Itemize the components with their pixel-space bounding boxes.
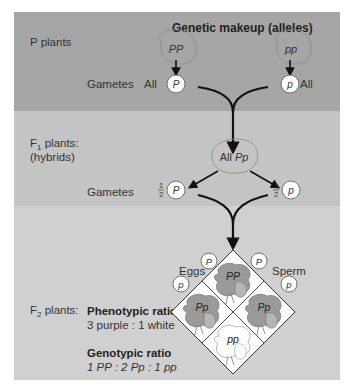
gamete-left-allele: P [173, 79, 180, 90]
sperm-P: P [251, 253, 267, 269]
svg-text:PP: PP [226, 270, 240, 282]
svg-text:P: P [173, 185, 180, 196]
svg-text:pp: pp [226, 333, 239, 345]
svg-text:p: p [177, 279, 183, 290]
svg-text:P: P [206, 256, 213, 267]
f1-gamete-p: 1 2 p [273, 181, 300, 199]
f1-genotype-oval: All Pp [212, 139, 258, 173]
arrow-diagonal-left-icon [192, 171, 218, 186]
svg-text:p: p [287, 185, 294, 196]
diagram-graphics: PP pp P p All Pp 1 [14, 12, 340, 380]
svg-text:Pp: Pp [258, 301, 271, 313]
svg-text:1: 1 [274, 181, 278, 190]
fertilization-arrow-icon [198, 195, 233, 244]
egg-p: p [173, 276, 189, 292]
parent-left-genotype: PP [169, 43, 184, 55]
genetics-diagram: P plants Gametes F1 plants: (hybrids) Ga… [14, 12, 340, 380]
parent-right-genotype: pp [284, 43, 297, 55]
f1-gamete-P: 1 2 P [158, 181, 185, 199]
sperm-p: p [281, 276, 297, 292]
gamete-P-parent: P [167, 75, 185, 93]
punnett-square: PP Pp Pp [171, 250, 295, 374]
gamete-right-allele: p [286, 79, 293, 90]
svg-text:2: 2 [159, 190, 163, 199]
f1-genotype-text: All Pp [220, 151, 249, 163]
svg-text:P: P [256, 256, 263, 267]
svg-text:1: 1 [159, 181, 163, 190]
egg-P: P [201, 253, 217, 269]
arrow-diagonal-right-icon [250, 171, 276, 186]
gamete-p-parent: p [281, 75, 299, 93]
fertilization-arrow-icon [198, 87, 233, 148]
svg-text:Pp: Pp [196, 301, 209, 313]
svg-text:p: p [285, 279, 291, 290]
svg-text:2: 2 [274, 190, 278, 199]
parent-pp-dominant: PP [160, 30, 197, 64]
parent-pp-recessive: pp [276, 30, 311, 64]
